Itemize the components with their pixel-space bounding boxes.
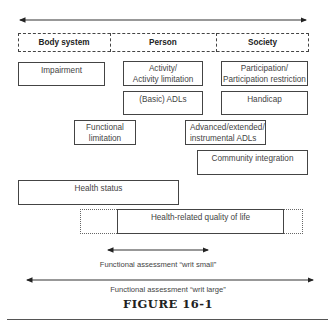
basic-adls-box: (Basic) ADLs — [123, 91, 203, 115]
advanced-label-line2: instrumental ADLs — [190, 134, 265, 145]
hrqol-left-extension — [80, 209, 119, 234]
participation-label-line1: Participation/ — [223, 64, 306, 75]
advanced-label-line1: Advanced/extended/ — [190, 123, 265, 134]
functional-label-line1: Functional — [86, 123, 124, 134]
impairment-box: Impairment — [18, 62, 105, 86]
handicap-box: Handicap — [221, 91, 308, 115]
health-status-box: Health status — [18, 180, 179, 205]
figure-caption: FIGURE 16-1 — [0, 297, 336, 311]
functional-label-line2: limitation — [86, 134, 124, 145]
impairment-label: Impairment — [41, 66, 82, 77]
activity-label-line2: Activity limitation — [133, 75, 194, 86]
activity-box: Activity/ Activity limitation — [123, 61, 203, 86]
header-society: Society — [216, 33, 309, 52]
writ-large-label: Functional assessment “writ large” — [90, 285, 246, 294]
hrqol-box: Health-related quality of life — [117, 209, 284, 234]
basic-adls-label: (Basic) ADLs — [139, 95, 186, 106]
header-body-system: Body system — [18, 33, 110, 52]
hrqol-label: Health-related quality of life — [151, 213, 250, 224]
hrqol-right-extension — [283, 209, 303, 234]
header-person: Person — [110, 33, 216, 52]
participation-box: Participation/ Participation restriction — [221, 61, 308, 86]
advanced-adls-box: Advanced/extended/ instrumental ADLs — [185, 120, 266, 145]
bottom-rule — [7, 319, 328, 320]
participation-label-line2: Participation restriction — [223, 75, 306, 86]
handicap-label: Handicap — [247, 95, 282, 106]
community-integration-box: Community integration — [197, 150, 308, 175]
writ-small-label: Functional assessment “writ small” — [90, 260, 226, 269]
functional-limitation-box: Functional limitation — [74, 120, 136, 145]
health-status-label: Health status — [75, 184, 123, 195]
activity-label-line1: Activity/ — [133, 64, 194, 75]
community-label: Community integration — [212, 154, 294, 165]
